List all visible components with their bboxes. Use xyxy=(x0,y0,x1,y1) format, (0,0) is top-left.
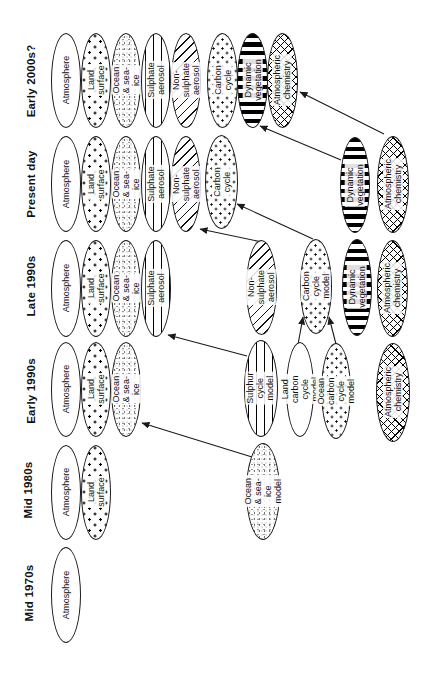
node-label-early90s-sulphur-cycle-model: Sulphur cycle model xyxy=(246,372,276,405)
node-present-atm-chemistry: Atmospheric chemistry xyxy=(377,136,409,233)
node-present-sulphate-aerosol: Sulphate aerosol xyxy=(141,136,171,232)
node-late90s-atm-chemistry: Atmospheric chemistry xyxy=(377,240,408,337)
era-label-early-1990s: Early 1990s xyxy=(25,358,37,424)
node-early90s-land-carbon-model: Land carbon cycle model xyxy=(286,342,314,437)
climate-model-evolution-diagram: Mid 1970sMid 1980sEarly 1990sLate 1990sP… xyxy=(0,0,431,689)
node-early90s-atmosphere: Atmosphere xyxy=(51,342,81,437)
node-label-2000s-dynamic-veg: Dynamic vegetation xyxy=(242,59,262,103)
node-label-2000s-land-surface: Land surface xyxy=(86,65,106,97)
node-late90s-land-surface: Land surface xyxy=(81,240,111,337)
node-mid80s-land-surface: Land surface xyxy=(81,445,111,540)
node-present-atmosphere: Atmosphere xyxy=(51,136,81,232)
node-label-2000s-sulphate-aerosol: Sulphate aerosol xyxy=(146,62,166,100)
node-label-present-atm-chemistry: Atmospheric chemistry xyxy=(383,158,403,210)
node-2000s-non-sulphate: Non-sulphate aerosol xyxy=(171,33,201,128)
node-2000s-atm-chemistry: Atmospheric chemistry xyxy=(267,33,298,128)
node-label-present-sulphate-aerosol: Sulphate aerosol xyxy=(146,165,166,203)
node-early90s-atm-chemistry: Atmospheric chemistry xyxy=(376,343,410,442)
node-label-early90s-atmosphere: Atmosphere xyxy=(61,364,71,415)
node-early90s-land-surface: Land surface xyxy=(81,342,111,437)
node-label-late90s-sulphate-aerosol: Sulphate aerosol xyxy=(146,270,166,308)
era-label-mid-1970s: Mid 1970s xyxy=(23,565,35,622)
node-label-2000s-ocean-sea-ice: Ocean & sea-ice xyxy=(111,66,141,95)
node-label-present-carbon-cycle: Carbon cycle xyxy=(211,166,231,198)
node-label-mid80s-atmosphere: Atmosphere xyxy=(61,467,71,518)
node-mid70s-atmosphere: Atmosphere xyxy=(51,547,81,643)
arrow-late90s-non-sulphate-to-present-non-sulphate xyxy=(200,229,262,242)
node-label-early90s-ocean-sea-ice: Ocean & sea-ice xyxy=(111,375,141,404)
era-label-early-2000s: Early 2000s? xyxy=(25,45,37,118)
node-late90s-non-sulphate: Non-sulphate aerosol xyxy=(246,240,277,335)
arrow-early90s-sulphur-cycle-model-to-late90s-sulphate-aerosol xyxy=(168,335,247,356)
node-label-2000s-atmosphere: Atmosphere xyxy=(61,55,71,106)
node-late90s-atmosphere: Atmosphere xyxy=(51,240,81,337)
node-2000s-ocean-sea-ice: Ocean & sea-ice xyxy=(111,33,141,128)
node-label-present-non-sulphate: Non-sulphate aerosol xyxy=(171,166,201,202)
node-label-late90s-ocean-sea-ice: Ocean & sea-ice xyxy=(111,274,141,303)
era-label-late-1990s: Late 1990s xyxy=(25,256,37,317)
node-label-mid70s-atmosphere: Atmosphere xyxy=(61,570,71,621)
node-present-non-sulphate: Non-sulphate aerosol xyxy=(171,136,201,232)
node-mid80s-atmosphere: Atmosphere xyxy=(51,445,81,540)
node-early90s-sulphur-cycle-model: Sulphur cycle model xyxy=(244,340,278,437)
arrow-present-atm-chemistry-to-2000s-atm-chemistry xyxy=(300,92,384,134)
node-label-present-dynamic-veg: Dynamic vegetation xyxy=(345,163,365,207)
node-present-dynamic-veg: Dynamic vegetation xyxy=(340,137,370,233)
node-early90s-ocean-carbon-model: Ocean carbon cycle model xyxy=(321,343,351,439)
era-label-present-day: Present day xyxy=(25,150,37,217)
node-label-late90s-atmosphere: Atmosphere xyxy=(61,263,71,314)
node-label-present-atmosphere: Atmosphere xyxy=(61,159,71,210)
node-label-late90s-non-sulphate: Non-sulphate aerosol xyxy=(246,269,276,305)
node-2000s-dynamic-veg: Dynamic vegetation xyxy=(237,33,268,128)
node-late90s-dynamic-veg: Dynamic vegetation xyxy=(342,239,372,336)
node-label-2000s-carbon-cycle: Carbon cycle xyxy=(212,65,232,97)
node-label-late90s-land-surface: Land surface xyxy=(86,273,106,305)
node-late90s-ocean-sea-ice: Ocean & sea-ice xyxy=(111,240,141,337)
node-label-early90s-land-surface: Land surface xyxy=(86,374,106,406)
node-late90s-carbon-cycle-model: Carbon cycle model xyxy=(300,239,332,334)
node-label-early90s-ocean-carbon-model: Ocean carbon cycle model xyxy=(316,376,356,406)
node-2000s-atmosphere: Atmosphere xyxy=(51,33,81,128)
node-mid80s-ocean-sea-ice-model: Ocean & sea-ice model xyxy=(246,443,280,540)
arrow-late90s-carbon-cycle-model-to-present-carbon-cycle xyxy=(237,204,313,239)
node-2000s-sulphate-aerosol: Sulphate aerosol xyxy=(141,33,171,128)
node-label-early90s-atm-chemistry: Atmospheric chemistry xyxy=(383,366,403,418)
node-late90s-sulphate-aerosol: Sulphate aerosol xyxy=(141,240,171,337)
node-label-early90s-land-carbon-model: Land carbon cycle model xyxy=(280,375,320,405)
node-present-land-surface: Land surface xyxy=(81,136,111,232)
node-label-late90s-dynamic-veg: Dynamic vegetation xyxy=(347,266,367,310)
node-label-late90s-carbon-cycle-model: Carbon cycle model xyxy=(301,271,331,303)
node-label-late90s-atm-chemistry: Atmospheric chemistry xyxy=(382,262,402,314)
node-label-2000s-non-sulphate: Non-sulphate aerosol xyxy=(171,62,201,98)
node-present-ocean-sea-ice: Ocean & sea-ice xyxy=(111,136,141,232)
node-present-carbon-cycle: Carbon cycle xyxy=(205,135,238,229)
node-2000s-carbon-cycle: Carbon cycle xyxy=(207,33,238,128)
era-label-mid-1980s: Mid 1980s xyxy=(22,462,34,519)
node-2000s-land-surface: Land surface xyxy=(81,33,111,128)
node-label-2000s-atm-chemistry: Atmospheric chemistry xyxy=(272,54,292,106)
node-label-mid80s-land-surface: Land surface xyxy=(86,477,106,509)
node-label-present-land-surface: Land surface xyxy=(86,168,106,200)
node-early90s-ocean-sea-ice: Ocean & sea-ice xyxy=(111,342,141,437)
arrow-mid80s-ocean-sea-ice-model-to-early90s-ocean-sea-ice xyxy=(142,423,252,457)
arrow-present-dynamic-veg-to-2000s-dynamic-veg xyxy=(260,126,341,160)
node-label-mid80s-ocean-sea-ice-model: Ocean & sea-ice model xyxy=(243,476,283,508)
node-label-present-ocean-sea-ice: Ocean & sea-ice xyxy=(111,170,141,199)
